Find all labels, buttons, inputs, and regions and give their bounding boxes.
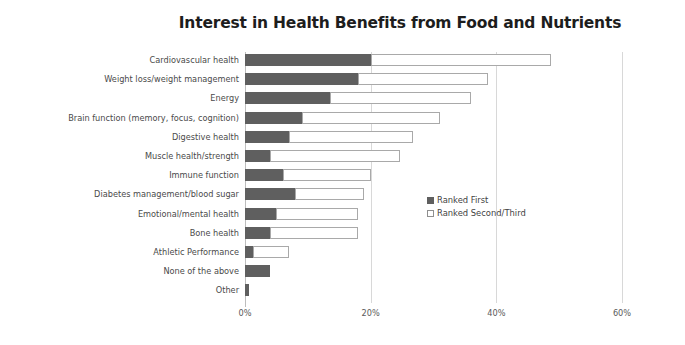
x-tick-label: 20% bbox=[341, 308, 401, 318]
category-label: Emotional/mental health bbox=[24, 208, 239, 220]
category-label: Weight loss/weight management bbox=[24, 73, 239, 85]
bar-segment-ranked-second-third bbox=[289, 131, 413, 143]
bar-row: Muscle health/strength bbox=[245, 150, 622, 162]
bar-segment-ranked-second-third bbox=[330, 92, 471, 104]
bar-segment-ranked-second-third bbox=[253, 246, 289, 258]
bar-segment-ranked-second-third bbox=[358, 73, 488, 85]
chart-title: Interest in Health Benefits from Food an… bbox=[140, 14, 660, 32]
bar-row: Immune function bbox=[245, 169, 622, 181]
filled-square-icon bbox=[427, 197, 434, 204]
bar-segment-ranked-first bbox=[245, 169, 283, 181]
bar-segment-ranked-first bbox=[245, 188, 295, 200]
x-tick-label: 60% bbox=[592, 308, 652, 318]
gridline-60 bbox=[622, 52, 623, 303]
bar-row: Other bbox=[245, 284, 622, 296]
bar-segment-ranked-second-third bbox=[371, 54, 551, 66]
category-label: Other bbox=[24, 284, 239, 296]
bar-segment-ranked-first bbox=[245, 150, 270, 162]
category-label: Bone health bbox=[24, 227, 239, 239]
bar-row: Brain function (memory, focus, cognition… bbox=[245, 112, 622, 124]
bar-row: Weight loss/weight management bbox=[245, 73, 622, 85]
hollow-square-icon bbox=[427, 210, 434, 217]
chart-legend: Ranked FirstRanked Second/Third bbox=[427, 194, 526, 220]
bar-row: None of the above bbox=[245, 265, 622, 277]
bar-segment-ranked-second-third bbox=[283, 169, 371, 181]
bar-row: Athletic Performance bbox=[245, 246, 622, 258]
bar-segment-ranked-second-third bbox=[270, 150, 400, 162]
bar-row: Energy bbox=[245, 92, 622, 104]
category-label: Digestive health bbox=[24, 131, 239, 143]
bar-row: Digestive health bbox=[245, 131, 622, 143]
x-axis-baseline bbox=[245, 303, 246, 307]
bar-segment-ranked-first bbox=[245, 73, 358, 85]
bar-segment-ranked-second-third bbox=[270, 227, 358, 239]
legend-item: Ranked First bbox=[427, 194, 526, 207]
bar-segment-ranked-first bbox=[245, 54, 371, 66]
category-label: Immune function bbox=[24, 169, 239, 181]
category-label: None of the above bbox=[24, 265, 239, 277]
x-tick-label: 40% bbox=[466, 308, 526, 318]
legend-item: Ranked Second/Third bbox=[427, 207, 526, 220]
category-label: Cardiovascular health bbox=[24, 54, 239, 66]
legend-label: Ranked Second/Third bbox=[437, 207, 526, 220]
bar-segment-ranked-second-third bbox=[295, 188, 364, 200]
bar-segment-ranked-first bbox=[245, 284, 249, 296]
category-label: Athletic Performance bbox=[24, 246, 239, 258]
bar-segment-ranked-first bbox=[245, 246, 253, 258]
bar-segment-ranked-second-third bbox=[302, 112, 440, 124]
category-label: Muscle health/strength bbox=[24, 150, 239, 162]
plot-area: Cardiovascular healthWeight loss/weight … bbox=[245, 52, 622, 303]
bar-row: Cardiovascular health bbox=[245, 54, 622, 66]
bar-segment-ranked-second-third bbox=[276, 208, 358, 220]
category-label: Energy bbox=[24, 92, 239, 104]
category-label: Brain function (memory, focus, cognition… bbox=[24, 112, 239, 124]
legend-label: Ranked First bbox=[437, 194, 488, 207]
bar-segment-ranked-first bbox=[245, 265, 270, 277]
bar-row: Bone health bbox=[245, 227, 622, 239]
bar-segment-ranked-first bbox=[245, 112, 302, 124]
bar-segment-ranked-first bbox=[245, 92, 330, 104]
bar-chart: Interest in Health Benefits from Food an… bbox=[0, 0, 685, 345]
bar-segment-ranked-first bbox=[245, 131, 289, 143]
bar-segment-ranked-first bbox=[245, 227, 270, 239]
category-label: Diabetes management/blood sugar bbox=[24, 188, 239, 200]
x-tick-label: 0% bbox=[215, 308, 275, 318]
bar-segment-ranked-first bbox=[245, 208, 276, 220]
